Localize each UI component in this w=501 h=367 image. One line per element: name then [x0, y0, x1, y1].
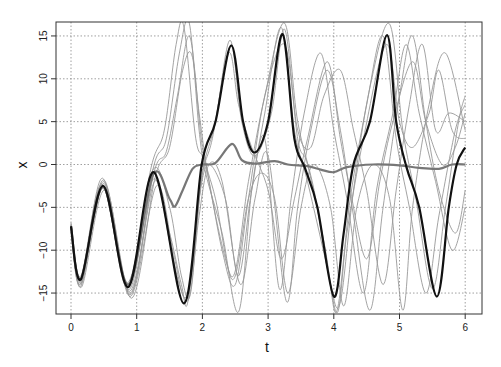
y-tick-label: 5: [38, 118, 49, 124]
series-group: [71, 19, 465, 312]
y-tick-label: 15: [38, 30, 49, 42]
y-axis: −15−10−5051015: [38, 30, 56, 302]
y-tick-label: −5: [38, 201, 49, 213]
y-tick-label: 0: [38, 161, 49, 167]
x-tick-label: 3: [265, 322, 271, 333]
x-axis: 0123456: [68, 314, 468, 333]
y-axis-label: x: [14, 162, 30, 169]
x-tick-label: 0: [68, 322, 74, 333]
x-axis-label: t: [265, 339, 269, 355]
y-tick-label: −15: [38, 284, 49, 301]
x-tick-label: 6: [462, 322, 468, 333]
x-tick-label: 4: [331, 322, 337, 333]
y-tick-label: −10: [38, 241, 49, 258]
x-tick-label: 5: [397, 322, 403, 333]
x-tick-label: 1: [134, 322, 140, 333]
y-tick-label: 10: [38, 73, 49, 85]
line-chart: 0123456 −15−10−5051015 t x: [0, 0, 501, 367]
x-tick-label: 2: [200, 322, 206, 333]
